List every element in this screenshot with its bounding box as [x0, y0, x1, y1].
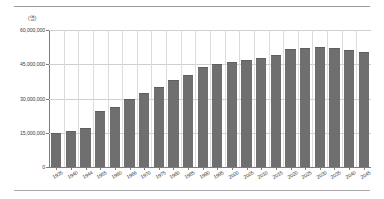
- x-tick-label: 2035: [330, 169, 342, 180]
- x-tick-mark: [86, 167, 87, 170]
- x-gridline: [108, 30, 109, 167]
- x-tick-mark: [203, 167, 204, 170]
- x-tick-mark: [217, 167, 218, 170]
- x-tick-mark: [349, 167, 350, 170]
- bar: [198, 67, 208, 167]
- x-gridline: [210, 30, 211, 167]
- chart-figure: (명) 015,000,00030,000,00045,000,00060,00…: [0, 0, 384, 199]
- x-tick-mark: [130, 167, 131, 170]
- y-tick-label: 45,000,000: [20, 61, 45, 67]
- x-axis-line: [49, 167, 371, 168]
- x-gridline: [239, 30, 240, 167]
- bar: [80, 128, 90, 167]
- y-tick-mark: [46, 133, 49, 134]
- x-gridline: [327, 30, 328, 167]
- bottom-divider-rule: [14, 190, 370, 191]
- bar: [315, 47, 325, 167]
- bar: [344, 50, 354, 167]
- x-tick-label: 1980: [169, 169, 181, 180]
- bar: [110, 107, 120, 167]
- bar: [359, 52, 369, 167]
- bar: [51, 133, 61, 167]
- x-tick-label: 2005: [242, 169, 254, 180]
- bar: [227, 62, 237, 167]
- y-tick-label: 30,000,000: [20, 96, 45, 102]
- x-tick-mark: [364, 167, 365, 170]
- x-tick-mark: [100, 167, 101, 170]
- x-gridline: [225, 30, 226, 167]
- bar: [300, 48, 310, 167]
- x-tick-mark: [334, 167, 335, 170]
- x-tick-label: 1985: [183, 169, 195, 180]
- bar: [285, 49, 295, 167]
- bar: [139, 93, 149, 167]
- x-tick-label: 1944: [81, 169, 93, 180]
- x-gridline: [64, 30, 65, 167]
- y-tick-label: 60,000,000: [20, 27, 45, 33]
- y-tick-mark: [46, 30, 49, 31]
- x-tick-mark: [261, 167, 262, 170]
- bar: [329, 48, 339, 167]
- bar: [168, 80, 178, 167]
- x-gridline: [312, 30, 313, 167]
- x-tick-mark: [159, 167, 160, 170]
- y-tick-mark: [46, 167, 49, 168]
- x-gridline: [78, 30, 79, 167]
- x-tick-mark: [173, 167, 174, 170]
- x-tick-mark: [188, 167, 189, 170]
- x-tick-mark: [247, 167, 248, 170]
- bar: [212, 64, 222, 167]
- x-gridline: [137, 30, 138, 167]
- bar: [66, 131, 76, 167]
- y-tick-label: 15,000,000: [20, 130, 45, 136]
- x-gridline: [254, 30, 255, 167]
- x-tick-label: 2010: [257, 169, 269, 180]
- x-tick-label: 1960: [110, 169, 122, 180]
- bar: [95, 111, 105, 167]
- x-tick-mark: [305, 167, 306, 170]
- y-tick-label: 0: [42, 164, 45, 170]
- x-gridline: [195, 30, 196, 167]
- y-tick-mark: [46, 64, 49, 65]
- x-tick-label: 1975: [154, 169, 166, 180]
- x-tick-label: 2045: [359, 169, 371, 180]
- x-tick-label: 2025: [300, 169, 312, 180]
- x-tick-mark: [291, 167, 292, 170]
- y-axis-unit-label: (명): [28, 14, 36, 21]
- x-gridline: [181, 30, 182, 167]
- x-gridline: [283, 30, 284, 167]
- x-tick-mark: [71, 167, 72, 170]
- x-tick-mark: [56, 167, 57, 170]
- x-gridline: [342, 30, 343, 167]
- x-tick-mark: [144, 167, 145, 170]
- x-gridline: [93, 30, 94, 167]
- x-tick-label: 2000: [227, 169, 239, 180]
- x-tick-label: 1990: [198, 169, 210, 180]
- bar: [154, 87, 164, 167]
- bar: [271, 55, 281, 167]
- x-gridline: [298, 30, 299, 167]
- x-tick-mark: [232, 167, 233, 170]
- x-gridline: [122, 30, 123, 167]
- bar: [124, 99, 134, 167]
- x-gridline: [356, 30, 357, 167]
- x-tick-label: 1966: [125, 169, 137, 180]
- x-tick-label: 2040: [344, 169, 356, 180]
- x-tick-mark: [320, 167, 321, 170]
- y-tick-mark: [46, 99, 49, 100]
- x-gridline: [151, 30, 152, 167]
- top-divider-rule: [14, 6, 370, 7]
- x-gridline: [269, 30, 270, 167]
- x-tick-mark: [115, 167, 116, 170]
- bar: [183, 75, 193, 167]
- bar: [241, 60, 251, 167]
- x-tick-label: 1970: [139, 169, 151, 180]
- plot-area: 015,000,00030,000,00045,000,00060,000,00…: [49, 30, 371, 167]
- x-tick-label: 1995: [213, 169, 225, 180]
- x-tick-label: 1940: [66, 169, 78, 180]
- x-gridline: [166, 30, 167, 167]
- x-tick-label: 2015: [271, 169, 283, 180]
- x-tick-mark: [276, 167, 277, 170]
- bar: [256, 58, 266, 167]
- x-tick-label: 2020: [286, 169, 298, 180]
